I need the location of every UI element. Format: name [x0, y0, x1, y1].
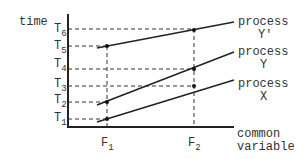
y-tick-t5: T5	[54, 39, 67, 56]
point-f1-t1	[105, 117, 109, 121]
process-y-label: process	[238, 45, 288, 59]
process-y-sublabel: Y	[260, 58, 267, 72]
x-axis-label-line2: variable	[237, 140, 295, 154]
process-y-prime-sublabel: Y'	[258, 28, 272, 42]
y-tick-t4: T4	[54, 57, 67, 74]
x-tick-f1: F1	[101, 136, 114, 153]
x-axis-label-line1: common	[237, 127, 280, 141]
point-f2-t3	[192, 84, 196, 88]
process-y-prime-label: process	[238, 15, 288, 29]
y-tick-t6: T6	[54, 22, 67, 39]
y-tick-t1: T1	[54, 111, 67, 128]
point-f2-t6	[192, 28, 196, 32]
y-axis-label: time	[19, 15, 48, 29]
process-x-sublabel: X	[260, 90, 267, 104]
y-tick-t3: T3	[54, 77, 67, 94]
y-tick-t2: T2	[54, 93, 67, 110]
point-f2-t4	[192, 67, 196, 71]
x-tick-f2: F2	[188, 136, 201, 153]
process-x-label: process	[238, 77, 288, 91]
point-f1-t2	[105, 100, 109, 104]
process-y-line	[97, 52, 234, 105]
process-y-prime-line	[97, 22, 234, 48]
process-time-diagram: time T6 T5 T4 T3 T2 T1 F1 F2 process Y' …	[0, 0, 305, 159]
point-f1-t5	[105, 44, 109, 48]
